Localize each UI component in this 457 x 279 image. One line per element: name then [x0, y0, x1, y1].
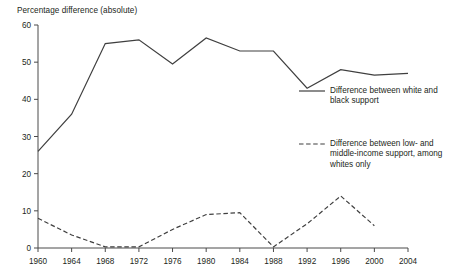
y-tick-label: 20	[22, 170, 32, 179]
x-tick-label: 2000	[365, 257, 384, 266]
x-tick-label: 1988	[264, 257, 283, 266]
x-tick-label: 1960	[29, 257, 48, 266]
x-tick-label: 1980	[197, 257, 216, 266]
series-line-income-whites	[38, 196, 374, 247]
y-tick-label: 10	[22, 207, 32, 216]
x-tick-label: 1996	[332, 257, 351, 266]
x-tick-label: 1984	[231, 257, 250, 266]
legend-label-income-whites: Difference between low- and middle-incom…	[330, 139, 454, 170]
legend-swatch-solid	[299, 86, 325, 96]
y-tick-label: 60	[22, 21, 32, 30]
y-tick-label: 50	[22, 58, 32, 67]
x-axis: 1960196419681972197619801984198819921996…	[29, 248, 418, 266]
y-tick-label: 30	[22, 133, 32, 142]
legend-label-white-black: Difference between white and black suppo…	[330, 86, 452, 107]
y-axis: 0102030405060	[22, 21, 38, 253]
x-tick-label: 2004	[399, 257, 418, 266]
chart-container: Percentage difference (absolute) 0102030…	[0, 0, 457, 279]
x-tick-label: 1976	[163, 257, 182, 266]
x-tick-label: 1964	[63, 257, 82, 266]
x-tick-label: 1992	[298, 257, 317, 266]
legend-swatch-dashed	[299, 139, 325, 149]
x-tick-label: 1972	[130, 257, 149, 266]
y-tick-label: 0	[26, 244, 31, 253]
y-tick-label: 40	[22, 95, 32, 104]
x-tick-label: 1968	[96, 257, 115, 266]
